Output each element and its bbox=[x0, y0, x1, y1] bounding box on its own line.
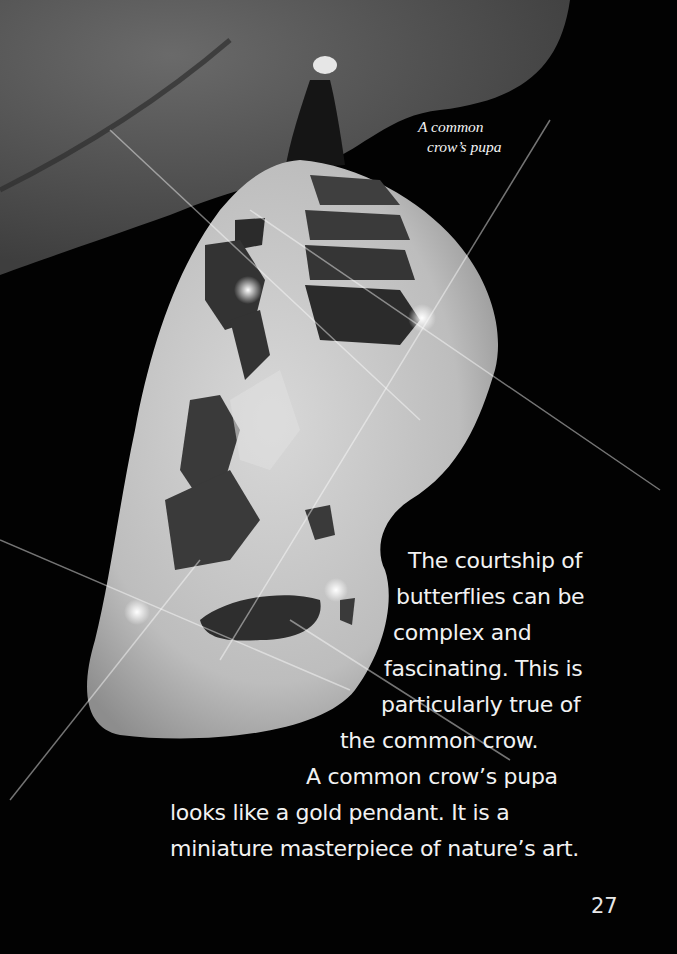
body-line: A common crow’s pupa bbox=[306, 764, 558, 789]
pupa-body bbox=[87, 160, 498, 739]
photo-caption: A common crow’s pupa bbox=[418, 117, 502, 157]
book-page: A common crow’s pupa The courtship ofbut… bbox=[0, 0, 677, 954]
body-line: fascinating. This is bbox=[384, 656, 582, 681]
caption-line-1: A common bbox=[418, 117, 502, 137]
page-number: 27 bbox=[591, 894, 618, 918]
body-line: the common crow. bbox=[340, 728, 538, 753]
body-line: looks like a gold pendant. It is a bbox=[170, 800, 509, 825]
caption-line-2: crow’s pupa bbox=[418, 137, 502, 157]
body-line: butterflies can be bbox=[396, 584, 584, 609]
body-line: complex and bbox=[393, 620, 531, 645]
body-line: particularly true of bbox=[381, 692, 580, 717]
body-line: The courtship of bbox=[408, 548, 582, 573]
body-line: miniature masterpiece of nature’s art. bbox=[170, 836, 579, 861]
